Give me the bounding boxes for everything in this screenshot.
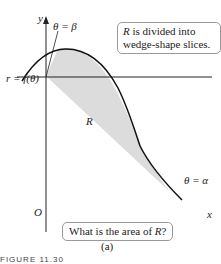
figure-number: FIGURE 11.30: [0, 255, 64, 264]
callout-top-text: is divided into wedge-shape slices.: [123, 25, 210, 50]
y-axis-label: y: [38, 12, 43, 24]
callout-bottom-text: What is the area of: [69, 225, 155, 237]
x-axis-label: x: [207, 208, 212, 220]
curve-label: r = f(θ): [6, 72, 39, 84]
origin-label: O: [34, 206, 42, 218]
theta-beta-label: θ = β: [53, 20, 77, 32]
region-label: R: [86, 115, 93, 127]
theta-alpha-label: θ = α: [184, 174, 208, 186]
callout-area-question: What is the area of R?: [62, 222, 173, 241]
callout-top-var: R: [123, 25, 130, 37]
y-axis-arrow-icon: [43, 16, 49, 24]
callout-wedge-slices: R is divided into wedge-shape slices.: [117, 22, 221, 54]
region-r-fill: [46, 48, 168, 190]
subfigure-caption: (a): [101, 240, 113, 252]
callout-bottom-end: ?: [162, 225, 167, 237]
callout-bottom-var: R: [155, 225, 162, 237]
